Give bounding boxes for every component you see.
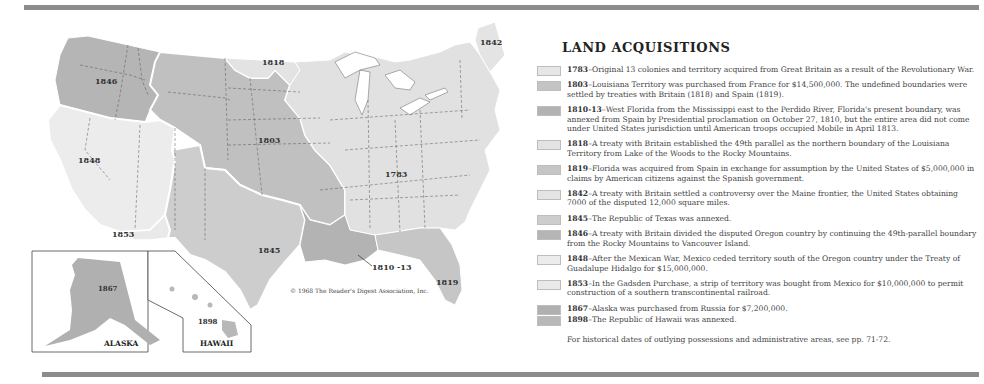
swatch-1898 xyxy=(537,316,561,326)
region-1848 xyxy=(48,105,175,232)
legend-text: Original 13 colonies and territory acqui… xyxy=(592,65,974,74)
alaska-label: ALASKA xyxy=(103,339,139,348)
legend-entry-1783: 1783–Original 13 colonies and territory … xyxy=(537,65,977,74)
swatch-1819 xyxy=(537,165,561,175)
legend-entry-1803: 1803–Louisiana Territory was purchased f… xyxy=(537,80,977,99)
legend-year: 1848 xyxy=(567,254,588,263)
legend-text: The Republic of Hawaii was annexed. xyxy=(592,315,737,324)
legend-year: 1818 xyxy=(567,139,588,148)
legend: LAND ACQUISITIONS 1783–Original 13 colon… xyxy=(537,40,977,344)
legend-year: 1810-13 xyxy=(567,105,602,114)
legend-entry-1898: 1898–The Republic of Hawaii was annexed. xyxy=(537,315,977,324)
legend-title: LAND ACQUISITIONS xyxy=(562,40,977,55)
legend-entry-1846: 1846–A treaty with Britain divided the d… xyxy=(537,229,977,248)
legend-year: 1853 xyxy=(567,279,588,288)
legend-year: 1846 xyxy=(567,229,588,238)
legend-year: 1845 xyxy=(567,214,588,223)
swatch-1853 xyxy=(537,280,561,290)
label-1842: 1842 xyxy=(480,37,502,47)
legend-entry-1818: 1818–A treaty with Britain established t… xyxy=(537,139,977,158)
swatch-1848 xyxy=(537,255,561,265)
legend-entry-1819: 1819–Florida was acquired from Spain in … xyxy=(537,164,977,183)
swatch-1845 xyxy=(537,215,561,225)
us-land-acquisitions-map: 1846 1818 1842 1803 1848 1783 1853 1845 … xyxy=(0,12,540,372)
swatch-1783 xyxy=(537,66,561,76)
label-1845: 1845 xyxy=(258,245,280,255)
label-1846: 1846 xyxy=(95,76,118,86)
legend-entry-1853: 1853–In the Gadsden Purchase, a strip of… xyxy=(537,279,977,298)
legend-year: 1819 xyxy=(567,164,588,173)
swatch-1810-13 xyxy=(537,106,561,116)
legend-entry-1842: 1842–A treaty with Britain settled a con… xyxy=(537,189,977,208)
legend-year: 1898 xyxy=(567,315,588,324)
hawaii-label: HAWAII xyxy=(200,339,234,348)
swatch-1842 xyxy=(537,190,561,200)
legend-text: After the Mexican War, Mexico ceded terr… xyxy=(567,254,960,272)
legend-text: A treaty with Britain settled a controve… xyxy=(567,189,958,207)
legend-text: Florida was acquired from Spain in excha… xyxy=(567,164,974,182)
legend-text: Alaska was purchased from Russia for $7,… xyxy=(592,304,788,313)
legend-entry-1810-13: 1810-13–West Florida from the Mississipp… xyxy=(537,105,977,133)
label-1848: 1848 xyxy=(78,155,101,165)
bottom-rule xyxy=(42,372,979,377)
label-1783: 1783 xyxy=(385,169,408,179)
legend-entry-1848: 1848–After the Mexican War, Mexico ceded… xyxy=(537,254,977,273)
swatch-1867 xyxy=(537,305,561,315)
legend-text: Louisiana Territory was purchased from F… xyxy=(567,80,967,98)
label-1867: 1867 xyxy=(98,284,118,293)
label-1819: 1819 xyxy=(436,277,459,287)
copyright-text: © 1968 The Reader's Digest Association, … xyxy=(290,287,429,295)
swatch-1846 xyxy=(537,230,561,240)
label-1898: 1898 xyxy=(198,317,218,326)
alaska-inset: 1867 ALASKA xyxy=(32,251,160,352)
label-1818: 1818 xyxy=(262,57,285,67)
legend-text: In the Gadsden Purchase, a strip of terr… xyxy=(567,279,963,297)
top-rule xyxy=(24,5,979,10)
label-1853: 1853 xyxy=(112,229,135,239)
footnote: For historical dates of outlying possess… xyxy=(567,335,977,344)
legend-text: West Florida from the Mississippi east t… xyxy=(567,105,969,133)
legend-entry-1845: 1845–The Republic of Texas was annexed. xyxy=(537,214,977,223)
legend-entry-1867: 1867–Alaska was purchased from Russia fo… xyxy=(537,304,977,313)
legend-year: 1783 xyxy=(567,65,588,74)
swatch-1818 xyxy=(537,140,561,150)
legend-text: A treaty with Britain divided the disput… xyxy=(567,229,976,247)
swatch-1803 xyxy=(537,81,561,91)
label-1810-13: 1810 -13 xyxy=(372,262,412,272)
legend-text: The Republic of Texas was annexed. xyxy=(592,214,731,223)
label-1803: 1803 xyxy=(258,135,281,145)
legend-year: 1803 xyxy=(567,80,588,89)
legend-text: A treaty with Britain established the 49… xyxy=(567,139,949,157)
legend-year: 1842 xyxy=(567,189,588,198)
legend-year: 1867 xyxy=(567,304,588,313)
